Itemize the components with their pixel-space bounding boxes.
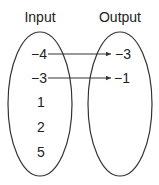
input-set-title: Input [24, 10, 55, 24]
input-value: −3 [31, 71, 47, 85]
input-value: 1 [37, 95, 45, 109]
output-set-title: Output [99, 10, 141, 24]
input-value: 2 [37, 120, 45, 134]
output-value: −1 [114, 71, 130, 85]
mapping-diagram [0, 0, 159, 185]
input-value: −4 [31, 47, 47, 61]
input-value: 5 [37, 145, 45, 159]
output-value: −3 [115, 47, 131, 61]
